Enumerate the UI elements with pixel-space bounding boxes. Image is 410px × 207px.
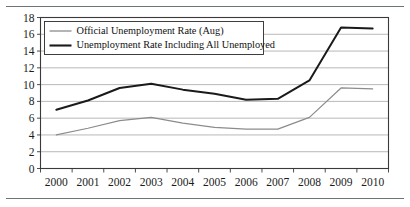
- x-axis-tick-label: 2001: [76, 176, 99, 188]
- x-axis-tick-label: 2004: [171, 176, 194, 188]
- y-axis-tick-label: 4: [29, 129, 35, 141]
- x-tick-mark-group: [41, 169, 389, 173]
- line-chart: 024681012141618 200020012002200320042005…: [0, 0, 410, 207]
- x-axis-tick-label: 2010: [361, 176, 384, 188]
- y-axis-tick-label: 10: [23, 79, 35, 91]
- x-axis-tick-labels: 2000200120022003200420052006200720082009…: [45, 176, 385, 188]
- x-axis-tick-label: 2009: [330, 176, 353, 188]
- y-axis-tick-label: 12: [23, 62, 35, 74]
- y-axis-tick-label: 2: [29, 146, 35, 158]
- x-axis-tick-label: 2006: [235, 176, 258, 188]
- x-axis-tick-label: 2002: [108, 176, 131, 188]
- y-axis-tick-label: 14: [23, 45, 35, 57]
- legend-label-2: Unemployment Rate Including All Unemploy…: [77, 39, 276, 50]
- chart-legend: Official Unemployment Rate (Aug)Unemploy…: [45, 22, 276, 55]
- legend-label-1: Official Unemployment Rate (Aug): [77, 25, 224, 37]
- y-axis-tick-label: 18: [23, 12, 35, 24]
- y-axis-tick-label: 8: [29, 95, 35, 107]
- y-axis-tick-label: 0: [29, 163, 35, 175]
- y-axis-tick-label: 16: [23, 28, 35, 40]
- chart-figure: 024681012141618 200020012002200320042005…: [0, 0, 410, 207]
- x-axis-tick-label: 2007: [266, 176, 289, 188]
- x-axis-tick-label: 2008: [298, 176, 321, 188]
- y-axis-tick-labels: 024681012141618: [23, 12, 35, 175]
- x-axis-tick-label: 2003: [140, 176, 163, 188]
- x-axis-tick-label: 2000: [45, 176, 68, 188]
- x-axis-tick-label: 2005: [203, 176, 226, 188]
- y-axis-tick-label: 6: [29, 112, 35, 124]
